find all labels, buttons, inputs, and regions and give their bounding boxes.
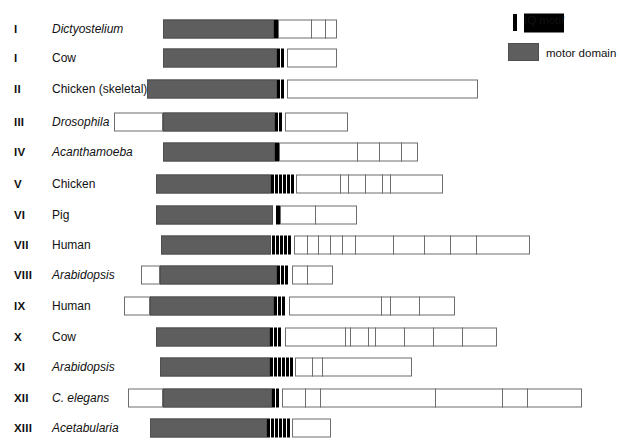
n-terminal-extension xyxy=(124,297,150,316)
iq-motif xyxy=(275,175,278,194)
tail-domain xyxy=(292,266,333,285)
motor-domain-swatch-icon xyxy=(508,43,539,61)
motor-domain xyxy=(156,175,271,194)
iq-motif xyxy=(279,175,282,194)
motor-domain xyxy=(163,143,275,162)
iq-motif xyxy=(278,358,281,377)
legend-label-motor-domain: motor domain xyxy=(546,47,616,59)
iq-motif xyxy=(277,49,280,68)
organism-label: Cow xyxy=(52,51,76,65)
iq-motif xyxy=(275,143,279,162)
protein-row: IIIDrosophila xyxy=(0,109,619,135)
tail-segment-divider xyxy=(424,236,425,255)
protein-row: XIIC. elegans xyxy=(0,385,619,411)
tail-segment-divider xyxy=(390,175,391,194)
myosin-class-label: X xyxy=(14,331,22,343)
protein-row: XIIIAcetabularia xyxy=(0,415,619,441)
legend: IQ motif motor domain xyxy=(508,12,612,72)
tail-segment-divider xyxy=(502,389,503,408)
motor-domain xyxy=(163,20,274,39)
protein-row: VChicken xyxy=(0,171,619,197)
tail-segment-divider xyxy=(348,175,349,194)
domain-structure-bar xyxy=(141,266,333,285)
tail-segment-divider xyxy=(355,236,356,255)
tail-segment-divider xyxy=(379,143,380,162)
iq-motif xyxy=(280,236,283,255)
domain-structure-bar xyxy=(156,206,357,225)
motor-domain xyxy=(160,266,277,285)
tail-segment-divider xyxy=(450,236,451,255)
myosin-class-label: XI xyxy=(14,361,25,373)
iq-motif xyxy=(282,297,285,316)
motor-domain xyxy=(163,49,277,68)
myosin-class-label: XII xyxy=(14,392,29,404)
iq-motif xyxy=(274,358,277,377)
iq-motif xyxy=(284,236,287,255)
tail-domain xyxy=(282,389,582,408)
legend-item-motor-domain: motor domain xyxy=(508,42,612,64)
organism-label: Arabidopsis xyxy=(52,268,115,282)
myosin-class-label: II xyxy=(14,83,21,95)
organism-label: Chicken xyxy=(52,177,95,191)
myosin-class-label: XIII xyxy=(14,422,32,434)
n-terminal-extension xyxy=(128,389,163,408)
legend-label-iq-motif: IQ motif xyxy=(524,14,564,33)
organism-label: Cow xyxy=(52,330,76,344)
protein-row: VIPig xyxy=(0,202,619,228)
protein-row: XCow xyxy=(0,324,619,350)
tail-segment-divider xyxy=(357,143,358,162)
iq-motif xyxy=(290,358,293,377)
motor-domain xyxy=(156,206,273,225)
motor-domain xyxy=(163,113,275,132)
tail-segment-divider xyxy=(342,236,343,255)
n-terminal-extension xyxy=(141,266,160,285)
domain-structure-bar xyxy=(114,113,348,132)
protein-row: VIIIArabidopsis xyxy=(0,262,619,288)
legend-item-iq-motif: IQ motif xyxy=(508,12,612,34)
domain-structure-bar xyxy=(128,389,582,408)
tail-segment-divider xyxy=(527,389,528,408)
domain-structure-bar xyxy=(163,143,418,162)
tail-domain xyxy=(285,113,348,132)
tail-segment-divider xyxy=(345,328,346,347)
tail-segment-divider xyxy=(325,20,326,39)
organism-label: Acanthamoeba xyxy=(52,145,133,159)
iq-motif xyxy=(275,113,278,132)
protein-row: XIArabidopsis xyxy=(0,354,619,380)
domain-structure-bar xyxy=(150,419,331,438)
domain-structure-bar xyxy=(147,80,478,99)
tail-segment-divider xyxy=(307,266,308,285)
myosin-domain-diagram: IDictyosteliumICowIIChicken (skeletal)II… xyxy=(0,0,619,444)
tail-domain xyxy=(287,80,478,99)
tail-segment-divider xyxy=(340,175,341,194)
myosin-class-label: V xyxy=(14,178,22,190)
iq-motif xyxy=(278,328,281,347)
tail-segment-divider xyxy=(435,389,436,408)
organism-label: Human xyxy=(52,238,91,252)
iq-motif xyxy=(279,419,282,438)
iq-motif xyxy=(270,328,273,347)
protein-row: IIChicken (skeletal) xyxy=(0,76,619,102)
tail-segment-divider xyxy=(307,236,308,255)
myosin-class-label: VII xyxy=(14,239,29,251)
tail-segment-divider xyxy=(390,297,391,316)
iq-motif xyxy=(279,113,282,132)
iq-motif xyxy=(291,175,294,194)
iq-motif xyxy=(277,266,280,285)
protein-row: IVAcanthamoeba xyxy=(0,139,619,165)
organism-label: Human xyxy=(52,299,91,313)
tail-segment-divider xyxy=(404,328,405,347)
iq-motif xyxy=(287,175,290,194)
motor-domain xyxy=(150,419,267,438)
tail-segment-divider xyxy=(462,328,463,347)
domain-structure-bar xyxy=(163,49,337,68)
domain-structure-bar xyxy=(156,328,497,347)
iq-motif xyxy=(267,419,270,438)
tail-segment-divider xyxy=(476,236,477,255)
tail-segment-divider xyxy=(381,297,382,316)
domain-structure-bar xyxy=(156,175,443,194)
iq-motif-swatch-icon xyxy=(513,14,517,31)
organism-label: Chicken (skeletal) xyxy=(52,82,147,96)
iq-motif xyxy=(271,419,274,438)
iq-motif xyxy=(286,358,289,377)
